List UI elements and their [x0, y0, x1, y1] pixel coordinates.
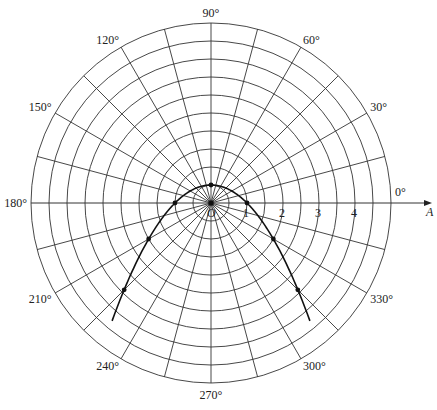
grid-ray: [211, 29, 258, 203]
grid-ray: [55, 113, 211, 203]
data-point: [146, 237, 151, 242]
grid-ray: [211, 156, 385, 203]
radial-tick-label: 2: [279, 206, 285, 220]
angle-label: 30°: [370, 100, 387, 114]
radial-tick-label: 4: [351, 206, 357, 220]
pole-label: O: [207, 206, 216, 220]
angle-label: 150°: [29, 100, 52, 114]
grid-ray: [84, 203, 211, 330]
grid-ray: [37, 203, 211, 250]
data-point: [122, 287, 127, 292]
angle-label: 240°: [96, 359, 119, 373]
grid-ray: [211, 203, 301, 359]
polar-axis: [31, 200, 432, 206]
angle-label: 180°: [4, 196, 27, 210]
data-point: [209, 183, 214, 188]
angle-label: 0°: [395, 185, 406, 199]
grid-ray: [211, 203, 367, 293]
grid-ray: [55, 203, 211, 293]
angle-label: 210°: [29, 292, 52, 306]
angle-label: 300°: [303, 359, 326, 373]
angle-labels: 0°30°60°90°120°150°180°210°240°270°300°3…: [4, 6, 406, 402]
grid-ray: [84, 76, 211, 203]
polar-chart: 0°30°60°90°120°150°180°210°240°270°300°3…: [0, 0, 437, 410]
angle-label: 90°: [203, 6, 220, 20]
grid-ray: [37, 156, 211, 203]
grid-ray: [164, 29, 211, 203]
data-point: [271, 237, 276, 242]
radial-tick-label: 3: [315, 206, 321, 220]
data-point: [295, 287, 300, 292]
polar-axis-label: A: [425, 205, 434, 219]
grid-ray: [211, 203, 258, 377]
grid-ray: [121, 203, 211, 359]
angle-label: 270°: [200, 388, 223, 402]
grid-ray: [121, 47, 211, 203]
grid-ray: [211, 113, 367, 203]
pole-point: [208, 200, 213, 205]
grid-ray: [211, 203, 385, 250]
angle-label: 120°: [96, 33, 119, 47]
data-point: [245, 201, 250, 206]
angle-label: 330°: [370, 292, 393, 306]
grid-ray: [164, 203, 211, 377]
radial-tick-label: 1: [243, 206, 249, 220]
grid-ray: [211, 203, 338, 330]
grid-ray: [211, 76, 338, 203]
angle-label: 60°: [303, 33, 320, 47]
grid-ray: [211, 47, 301, 203]
data-point: [173, 201, 178, 206]
